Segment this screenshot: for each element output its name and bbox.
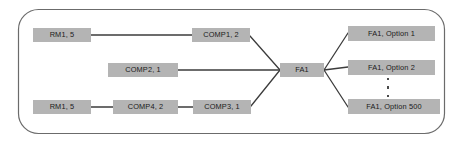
node-comp1[interactable]: COMP1, 2 [192,28,250,42]
node-comp3[interactable]: COMP3, 1 [193,100,251,114]
node-rm1-top[interactable]: RM1, 5 [33,28,91,42]
ellipsis-dot [387,78,389,80]
node-label: RM1, 5 [50,31,75,38]
node-fa1-hub[interactable]: FA1 [280,63,324,77]
ellipsis-dot [387,86,389,88]
node-label: RM1, 5 [50,103,75,110]
node-label: FA1, Option 500 [366,103,422,110]
node-fa1-option-2[interactable]: FA1, Option 2 [348,60,435,75]
node-label: FA1, Option 2 [368,64,415,71]
node-label: FA1, Option 1 [368,30,415,37]
node-label: COMP2, 1 [125,66,161,73]
node-label: COMP4, 2 [128,103,164,110]
node-comp4[interactable]: COMP4, 2 [113,100,178,114]
node-label: COMP1, 2 [203,31,239,38]
diagram-canvas: RM1, 5 COMP1, 2 COMP2, 1 FA1 RM1, 5 COMP… [0,0,462,143]
node-rm1-bottom[interactable]: RM1, 5 [33,100,91,114]
vertical-ellipsis-icon [387,78,389,97]
node-fa1-option-1[interactable]: FA1, Option 1 [348,26,435,41]
node-label: FA1 [295,66,309,73]
ellipsis-dot [387,95,389,97]
node-label: COMP3, 1 [204,103,240,110]
node-comp2[interactable]: COMP2, 1 [108,63,178,77]
node-fa1-option-500[interactable]: FA1, Option 500 [348,99,440,114]
